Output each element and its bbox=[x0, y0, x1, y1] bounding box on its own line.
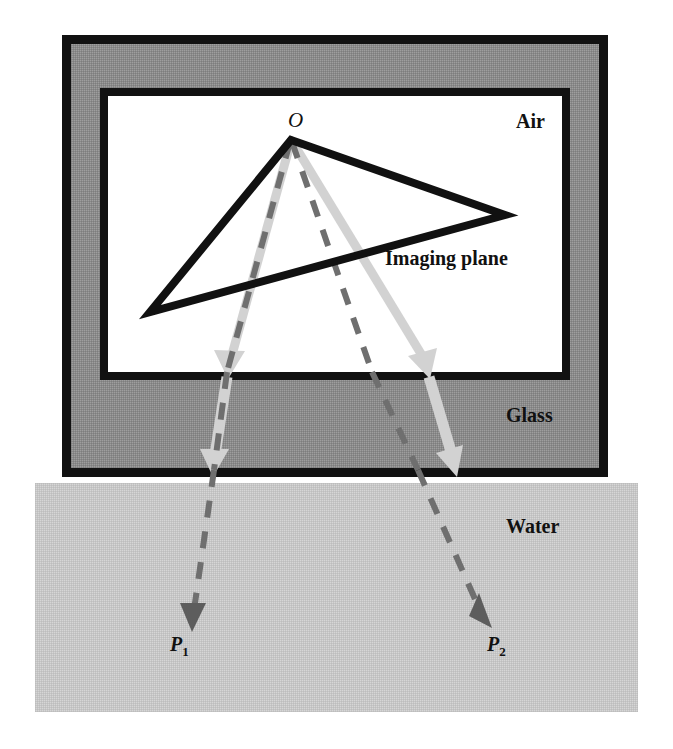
air-label: Air bbox=[516, 110, 545, 133]
imaging-plane-label: Imaging plane bbox=[385, 247, 508, 270]
point-p1-subscript: 1 bbox=[182, 644, 189, 659]
air-region bbox=[104, 92, 566, 376]
point-p1-label: P1 bbox=[170, 633, 189, 660]
point-p2-label: P2 bbox=[487, 633, 506, 660]
optics-diagram-svg bbox=[0, 0, 673, 749]
point-p2-subscript: 2 bbox=[499, 644, 506, 659]
optical-center-label: O bbox=[288, 108, 303, 133]
point-p2-base: P bbox=[487, 633, 499, 655]
water-label: Water bbox=[506, 515, 559, 538]
point-p1-base: P bbox=[170, 633, 182, 655]
optical-center-point bbox=[288, 137, 295, 144]
figure-canvas: O Air Glass Water Imaging plane P1 P2 bbox=[0, 0, 673, 749]
glass-label: Glass bbox=[506, 404, 553, 427]
